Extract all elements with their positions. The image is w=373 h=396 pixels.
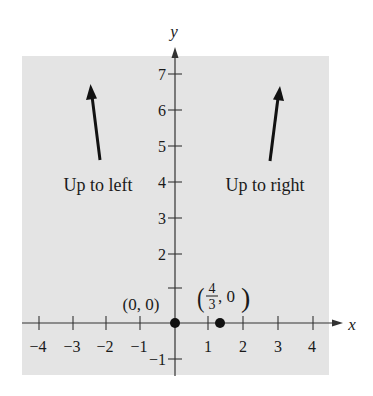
x-axis-label: x: [347, 315, 356, 334]
y-tick-label: 4: [158, 174, 166, 191]
y-tick-label: 2: [158, 246, 166, 263]
x-tick-label: 1: [204, 338, 212, 355]
x-tick-label: −4: [29, 338, 46, 355]
y-tick-label: 3: [158, 210, 166, 227]
paren-close: ): [241, 282, 250, 313]
chart: y x −4 −3 −2 −1 1 2 3 4 7 6 5 4 3 2 −1 (…: [0, 0, 373, 396]
fraction-denominator: 3: [209, 297, 216, 312]
fraction-numerator: 4: [209, 281, 216, 296]
right-annotation-label: Up to right: [226, 175, 305, 195]
point-origin: [170, 318, 180, 328]
point-four-thirds: [215, 318, 225, 328]
x-tick-label: −2: [96, 338, 113, 355]
origin-point-label: (0, 0): [123, 295, 160, 314]
left-annotation-label: Up to left: [64, 175, 133, 195]
x-tick-label: −1: [130, 338, 147, 355]
x-tick-label: 3: [274, 338, 282, 355]
y-tick-label: 6: [158, 102, 166, 119]
x-tick-label: 4: [308, 338, 316, 355]
y-tick-label: 5: [158, 138, 166, 155]
point2-rest: , 0: [218, 287, 235, 306]
x-tick-label: 2: [239, 338, 247, 355]
paren-open: (: [197, 282, 204, 314]
y-axis-arrow-icon: [172, 47, 179, 58]
y-tick-label: 7: [158, 66, 166, 83]
x-tick-label: −3: [63, 338, 80, 355]
y-axis-label: y: [168, 22, 178, 41]
x-axis-arrow-icon: [332, 320, 343, 327]
y-tick-label: −1: [149, 351, 166, 368]
